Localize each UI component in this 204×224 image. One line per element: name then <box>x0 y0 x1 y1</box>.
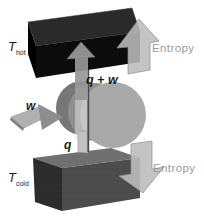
heat-arrow-icon <box>78 131 88 153</box>
q-label: q <box>64 138 72 152</box>
work-arrow-icon <box>10 104 63 131</box>
cylinder-face <box>80 82 146 148</box>
t-hot-label: Thot <box>8 39 26 56</box>
q-plus-w-label: q + w <box>86 73 119 87</box>
diagram-canvas: Thot Entropy q + w w q Tcold Entropy <box>0 0 204 224</box>
entropy-bottom-label: Entropy <box>153 162 195 174</box>
thermodynamic-entropy-diagram: Thot Entropy q + w w q Tcold Entropy <box>0 0 204 224</box>
entropy-top-label: Entropy <box>152 42 194 54</box>
t-cold-label: Tcold <box>8 170 29 187</box>
w-label: w <box>26 99 36 113</box>
